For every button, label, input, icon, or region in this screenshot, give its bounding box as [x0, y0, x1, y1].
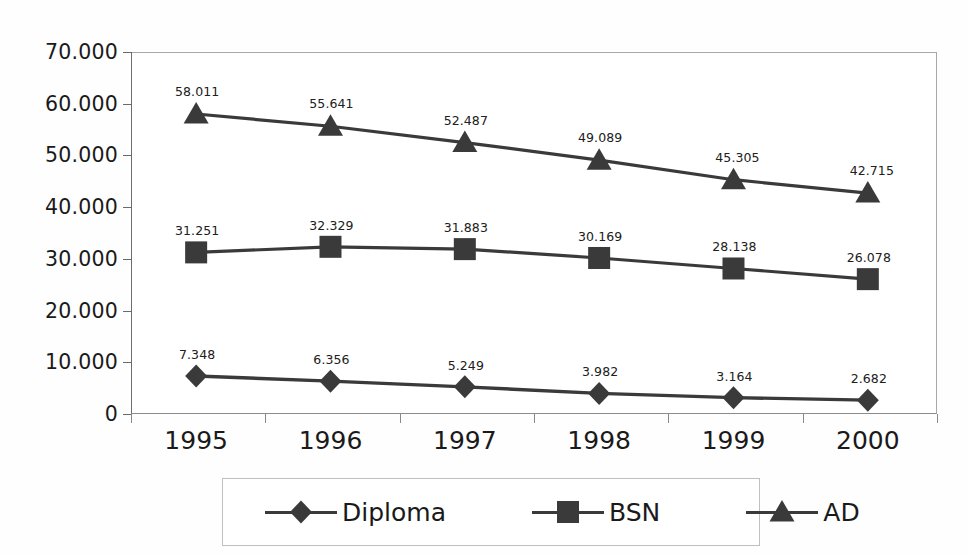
- point-label: 49.089: [578, 130, 622, 145]
- legend-item-bsn[interactable]: BSN: [532, 498, 660, 527]
- point-label: 26.078: [847, 250, 891, 265]
- point-label: 2.682: [851, 371, 887, 386]
- point-label: 45.305: [715, 150, 759, 165]
- point-label: 32.329: [309, 218, 353, 233]
- triangle-icon: [746, 499, 818, 525]
- square-icon: [532, 499, 604, 525]
- data-point-diploma-1996: [319, 370, 341, 393]
- data-point-bsn-1995: [185, 241, 207, 263]
- series-layer: [0, 0, 968, 554]
- series-line-ad: [196, 114, 868, 193]
- data-point-bsn-2000: [857, 268, 879, 290]
- point-label: 58.011: [175, 84, 219, 99]
- point-label: 52.487: [444, 113, 488, 128]
- series-line-bsn: [196, 247, 868, 279]
- point-label: 55.641: [309, 96, 353, 111]
- point-label: 42.715: [850, 163, 894, 178]
- point-label: 28.138: [712, 239, 756, 254]
- data-point-ad-1995: [184, 102, 209, 124]
- point-label: 31.251: [175, 223, 219, 238]
- data-point-bsn-1997: [454, 238, 476, 260]
- legend: DiplomaBSNAD: [222, 478, 760, 546]
- point-label: 30.169: [578, 229, 622, 244]
- legend-label: Diploma: [342, 498, 446, 527]
- point-label: 3.164: [716, 369, 752, 384]
- point-label: 5.249: [448, 358, 484, 373]
- data-point-diploma-1997: [454, 375, 476, 398]
- data-point-diploma-1998: [588, 382, 610, 405]
- data-point-bsn-1996: [319, 236, 341, 258]
- legend-label: AD: [823, 498, 859, 527]
- point-label: 3.982: [582, 364, 618, 379]
- data-point-bsn-1998: [588, 247, 610, 269]
- line-chart: 70.00060.00050.00040.00030.00020.00010.0…: [0, 0, 968, 554]
- point-label: 7.348: [179, 347, 215, 362]
- legend-item-diploma[interactable]: Diploma: [265, 498, 446, 527]
- data-point-diploma-1995: [185, 365, 207, 388]
- point-label: 31.883: [444, 220, 488, 235]
- data-point-bsn-1999: [722, 257, 744, 279]
- series-line-diploma: [196, 376, 868, 400]
- data-point-diploma-2000: [857, 389, 879, 412]
- data-point-diploma-1999: [722, 386, 744, 409]
- legend-label: BSN: [609, 498, 660, 527]
- legend-item-ad[interactable]: AD: [746, 498, 859, 527]
- point-label: 6.356: [313, 352, 349, 367]
- diamond-icon: [265, 499, 337, 525]
